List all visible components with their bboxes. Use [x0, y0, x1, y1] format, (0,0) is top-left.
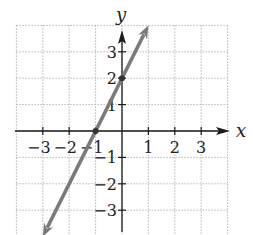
x-tick-label: 1: [143, 138, 153, 157]
y-tick-label: 3: [107, 43, 117, 62]
y-tick-label: −2: [93, 175, 117, 194]
axes: [15, 30, 230, 232]
y-tick-label: −3: [93, 201, 117, 220]
y-tick-label: 2: [107, 69, 117, 88]
x-tick-label: −3: [27, 138, 51, 157]
y-tick-label: −1: [93, 148, 117, 167]
marked-point: [93, 128, 99, 134]
marked-point: [119, 75, 125, 81]
x-tick-label: 3: [196, 138, 206, 157]
graph: −3−2−1123−3−2−1123 x y: [0, 0, 253, 235]
x-tick-label: −2: [53, 138, 77, 157]
y-axis-label: y: [115, 4, 127, 25]
x-axis-label: x: [236, 120, 246, 141]
x-tick-label: 2: [170, 138, 180, 157]
